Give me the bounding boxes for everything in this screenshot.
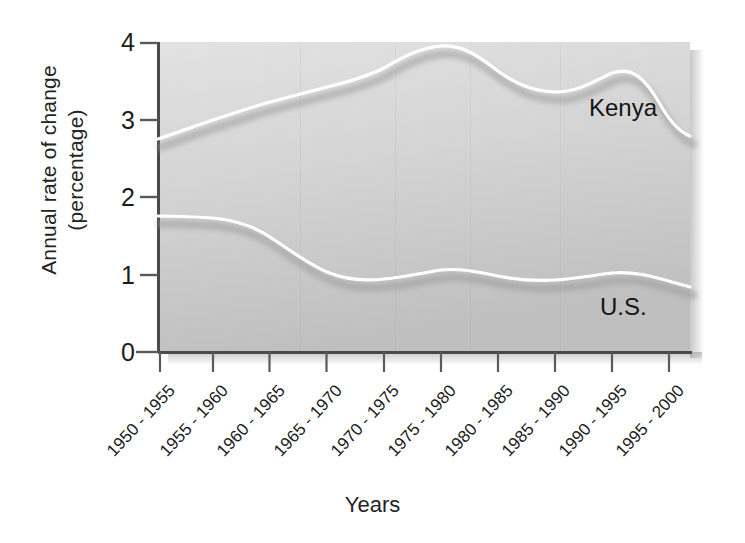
plot-shadow-right — [690, 50, 704, 358]
series-label-us: U.S. — [600, 293, 647, 321]
x-axis-title: Years — [0, 492, 745, 518]
y-axis-ticks — [136, 43, 158, 352]
chart-figure: Annual rate of change (percentage) 4 3 2… — [0, 0, 745, 543]
series-label-kenya: Kenya — [589, 94, 657, 122]
